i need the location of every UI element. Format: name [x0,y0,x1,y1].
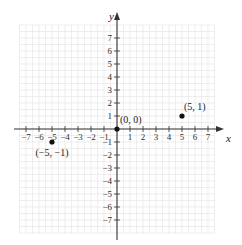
point-label: (0, 0) [120,114,142,126]
x-tick-label: 2 [141,132,146,142]
y-tick-label: 7 [108,33,113,43]
x-tick-label: −7 [21,132,31,142]
y-tick-label: 4 [108,72,113,82]
data-point [49,139,54,144]
y-tick-label: 2 [108,98,113,108]
y-axis-label: y [108,10,114,22]
y-tick-label: −7 [102,215,112,225]
y-axis-arrow-icon [114,12,120,20]
y-tick-label: 6 [108,46,113,56]
y-tick-label: 5 [108,59,113,69]
point-label: (5, 1) [184,101,206,113]
point-label: (−5, −1) [36,147,69,159]
x-tick-label: 3 [154,132,159,142]
x-tick-label: −3 [73,132,83,142]
data-point [179,113,184,118]
y-tick-label: 3 [108,85,113,95]
x-tick-label: −6 [34,132,44,142]
x-tick-label: −2 [86,132,96,142]
x-tick-label: 6 [193,132,198,142]
data-point [114,126,119,131]
x-tick-label: 7 [206,132,211,142]
x-axis-arrow-icon [216,126,224,132]
coordinate-plane: −7−6−5−4−3−2−112345677654321−1−2−3−4−5−6… [0,0,242,245]
x-tick-label: 4 [167,132,172,142]
y-tick-label: −4 [102,176,112,186]
y-tick-label: −2 [102,150,112,160]
y-tick-label: 1 [108,111,113,121]
x-axis-label: x [225,132,231,144]
y-tick-label: −5 [102,189,112,199]
x-tick-label: −4 [60,132,70,142]
x-tick-label: 5 [180,132,185,142]
y-tick-label: −1 [102,137,112,147]
x-tick-label: 1 [128,132,133,142]
y-tick-label: −6 [102,202,112,212]
y-tick-label: −3 [102,163,112,173]
